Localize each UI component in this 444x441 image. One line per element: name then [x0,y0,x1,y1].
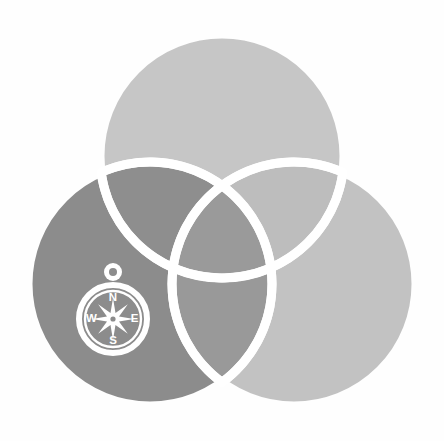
compass-pivot-dot [110,316,115,321]
venn-compass-logo: N E S W [0,0,444,441]
compass-label-east: E [131,312,139,324]
logo-canvas: N E S W [0,0,444,441]
compass-label-west: W [86,312,97,324]
compass-label-north: N [109,291,117,303]
compass-loop-inner [109,268,117,276]
compass-label-south: S [109,334,117,346]
compass-loop-icon [104,263,122,281]
